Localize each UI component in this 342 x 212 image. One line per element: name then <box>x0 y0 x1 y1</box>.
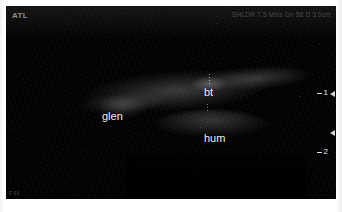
ultrasound-viewer: ATL SHLDR 7.5 MHz Gn 58 D 3.0cm F 01 gle… <box>0 0 342 212</box>
caliper-marker-lower <box>207 104 208 113</box>
vendor-logo: ATL <box>12 11 28 20</box>
ultrasound-image-canvas[interactable]: ATL SHLDR 7.5 MHz Gn 58 D 3.0cm F 01 gle… <box>6 6 336 199</box>
frame-id-text: F 01 <box>9 190 20 196</box>
annotation-biceps-tendon: bt <box>204 86 213 98</box>
annotation-glenoid: glen <box>102 110 123 122</box>
glenoid-echo-region <box>88 90 158 124</box>
depth-tick-1: 1 <box>324 88 328 97</box>
focal-zone-caret-upper <box>330 91 335 97</box>
caliper-marker-upper <box>209 74 210 85</box>
focal-zone-caret-lower <box>330 130 335 136</box>
posterior-acoustic-shadow <box>126 156 306 199</box>
annotation-humerus: hum <box>204 132 225 144</box>
depth-tick-2: 2 <box>324 147 328 156</box>
scan-parameters-text: SHLDR 7.5 MHz Gn 58 D 3.0cm <box>232 11 331 18</box>
